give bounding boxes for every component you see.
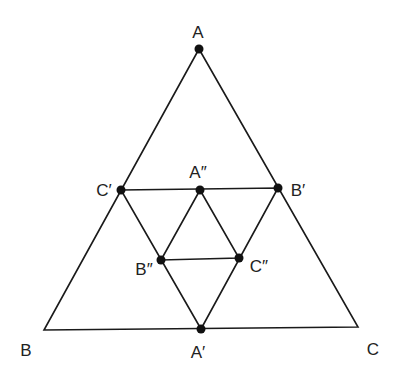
label-a-double-prime: A″ bbox=[189, 163, 206, 182]
label-a-prime: A′ bbox=[191, 343, 206, 362]
label-c-double-prime: C″ bbox=[250, 257, 268, 276]
point-c-prime bbox=[117, 186, 126, 195]
point-c-double-prime bbox=[235, 254, 244, 263]
point-a-prime bbox=[197, 325, 206, 334]
label-c: C bbox=[367, 340, 379, 359]
triangle-diagram: A B C A′ B′ C′ A″ B″ C″ bbox=[0, 0, 396, 378]
label-c-prime: C′ bbox=[96, 181, 111, 200]
point-a-double-prime bbox=[196, 186, 205, 195]
point-b-prime bbox=[274, 184, 283, 193]
label-b: B bbox=[20, 341, 31, 360]
inner-triangle-a2b2c2 bbox=[161, 190, 239, 260]
label-b-prime: B′ bbox=[291, 181, 306, 200]
point-a bbox=[195, 45, 204, 54]
point-b-double-prime bbox=[157, 256, 166, 265]
label-b-double-prime: B″ bbox=[135, 260, 152, 279]
label-a: A bbox=[192, 23, 204, 42]
